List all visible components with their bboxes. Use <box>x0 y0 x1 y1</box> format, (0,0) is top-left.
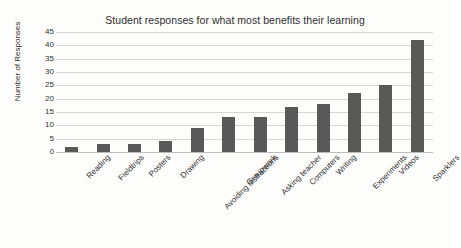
bar <box>128 144 141 152</box>
bar <box>97 144 110 152</box>
y-axis-tick-label: 15 <box>30 108 54 116</box>
y-axis-tick-label: 20 <box>30 95 54 103</box>
bar <box>411 40 424 152</box>
y-axis-title: Number of Responses <box>13 17 22 107</box>
bars-group <box>56 32 433 152</box>
x-axis-tick-labels: ReadingFieldtripsPostersDrawingAvoiding … <box>56 153 433 248</box>
y-axis-tick-label: 45 <box>30 28 54 36</box>
y-axis-tick-labels: 051015202530354045 <box>30 32 54 152</box>
bar <box>379 85 392 152</box>
bar <box>65 147 78 152</box>
y-axis-tick-label: 0 <box>30 148 54 156</box>
x-axis-tick-label: Drawing <box>179 153 206 180</box>
y-axis-tick-label: 5 <box>30 135 54 143</box>
x-axis-tick-label: Sparklers <box>431 153 461 183</box>
plot-area <box>56 32 433 152</box>
bar <box>159 141 172 152</box>
bar <box>317 104 330 152</box>
y-axis-tick-label: 40 <box>30 41 54 49</box>
y-axis-tick-label: 35 <box>30 55 54 63</box>
y-axis-tick-label: 10 <box>30 121 54 129</box>
bar <box>222 117 235 152</box>
x-axis-tick-label: Reading <box>84 153 111 180</box>
y-axis-tick-label: 30 <box>30 68 54 76</box>
bar <box>191 128 204 152</box>
bar <box>285 107 298 152</box>
x-axis-tick-label: Posters <box>146 153 172 179</box>
chart-title: Student responses for what most benefits… <box>55 14 415 26</box>
x-axis-tick-label: Fieldtrips <box>117 153 146 182</box>
bar <box>254 117 267 152</box>
x-axis-tick-label: Groupwork <box>244 153 278 187</box>
y-axis-tick-label: 25 <box>30 81 54 89</box>
bar <box>348 93 361 152</box>
